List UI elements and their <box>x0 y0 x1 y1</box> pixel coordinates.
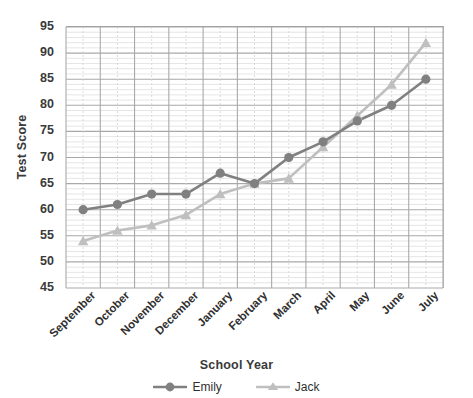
x-tick-label: May <box>363 289 371 297</box>
data-point-emily <box>387 101 396 110</box>
x-axis-title: School Year <box>0 358 473 372</box>
legend-swatch-circle-icon <box>153 381 187 393</box>
data-point-emily <box>250 179 259 188</box>
x-tick-label: January <box>226 289 234 297</box>
chart-legend: EmilyJack <box>0 380 473 394</box>
x-tick-label-text: June <box>379 289 406 316</box>
x-tick-label: April <box>329 289 337 297</box>
x-tick-label: November <box>158 289 166 297</box>
data-point-emily <box>318 137 327 146</box>
x-tick-label: September <box>89 289 97 297</box>
data-point-emily <box>181 189 190 198</box>
data-point-emily <box>216 169 225 178</box>
x-tick-label-text: March <box>271 289 303 321</box>
x-tick-label: March <box>295 289 303 297</box>
x-tick-label: June <box>398 289 406 297</box>
y-tick-label: 75 <box>40 123 54 137</box>
legend-item-jack[interactable]: Jack <box>256 380 320 394</box>
data-point-emily <box>421 75 430 84</box>
x-tick-label: December <box>192 289 200 297</box>
y-tick-label: 70 <box>40 150 54 164</box>
y-tick-label: 95 <box>40 19 54 33</box>
data-point-emily <box>284 153 293 162</box>
y-tick-label: 60 <box>40 202 54 216</box>
data-point-emily <box>147 189 156 198</box>
data-point-jack <box>421 37 431 46</box>
x-tick-label: July <box>432 289 440 297</box>
legend-item-emily[interactable]: Emily <box>153 380 221 394</box>
x-tick-label-text: April <box>311 289 338 316</box>
y-tick-label: 90 <box>40 45 54 59</box>
x-axis-tick-labels: SeptemberOctoberNovemberDecemberJanuaryF… <box>66 289 443 359</box>
legend-label: Emily <box>192 380 221 394</box>
y-tick-label: 65 <box>40 176 54 190</box>
legend-swatch-triangle-icon <box>256 381 290 393</box>
y-tick-label: 80 <box>40 97 54 111</box>
x-tick-label-text: July <box>416 289 441 314</box>
y-tick-label: 50 <box>40 254 54 268</box>
x-tick-label-text: May <box>347 289 371 313</box>
data-point-jack <box>181 210 191 219</box>
y-tick-label: 45 <box>40 280 54 294</box>
line-chart: Test Score 9590858075706560555045 Septem… <box>0 0 473 398</box>
legend-label: Jack <box>295 380 320 394</box>
data-point-emily <box>79 205 88 214</box>
x-tick-label: February <box>261 289 269 297</box>
plot-svg <box>66 27 443 288</box>
x-tick-label: October <box>123 289 131 297</box>
data-point-emily <box>113 200 122 209</box>
y-tick-label: 85 <box>40 71 54 85</box>
plot-area <box>66 26 444 288</box>
y-tick-label: 55 <box>40 228 54 242</box>
y-axis-tick-labels: 9590858075706560555045 <box>0 0 62 398</box>
data-point-emily <box>353 116 362 125</box>
